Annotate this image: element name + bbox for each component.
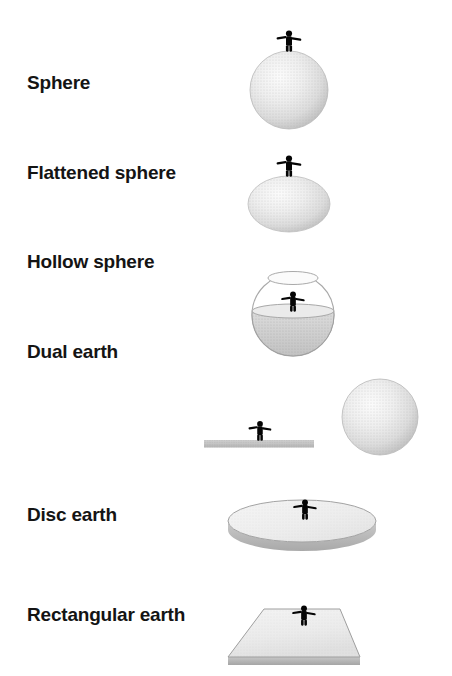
hollow-sphere-inner-floor xyxy=(252,304,334,318)
standing-person-arms-out-icon xyxy=(276,155,301,176)
figure-hollow-sphere xyxy=(240,267,352,363)
row-label-sphere: Sphere xyxy=(27,73,90,92)
rectangular-earth-edge xyxy=(228,657,360,665)
row-dual-earth: Dual earth xyxy=(0,360,452,475)
earth-shape-models-figure: Sphere xyxy=(0,0,452,676)
dual-earth-flat-slab-texture xyxy=(204,440,314,448)
standing-person-arms-out-icon xyxy=(248,421,271,441)
row-disc-earth: Disc earth xyxy=(0,475,452,565)
row-rectangular-earth: Rectangular earth xyxy=(0,565,452,676)
row-label-dual-earth: Dual earth xyxy=(27,342,118,361)
figure-rectangular-earth xyxy=(222,577,387,675)
figure-sphere xyxy=(230,14,350,142)
figure-disc-earth xyxy=(222,479,382,565)
standing-person-arms-out-icon xyxy=(276,30,301,51)
row-label-disc-earth: Disc earth xyxy=(27,505,117,524)
hollow-sphere-top-rim xyxy=(268,272,318,285)
figure-dual-earth xyxy=(190,372,440,482)
rectangular-earth-top-texture xyxy=(228,609,360,657)
row-sphere: Sphere xyxy=(0,0,452,145)
row-label-flattened-sphere: Flattened sphere xyxy=(27,163,176,182)
figure-flattened-sphere xyxy=(234,149,356,235)
row-label-hollow-sphere: Hollow sphere xyxy=(27,252,154,271)
row-flattened-sphere: Flattened sphere xyxy=(0,145,452,235)
row-label-rectangular-earth: Rectangular earth xyxy=(27,605,185,624)
